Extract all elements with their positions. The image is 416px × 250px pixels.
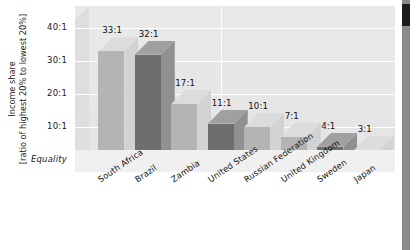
bar-value-label-6: 4:1 bbox=[321, 121, 335, 131]
bar-value-label-0: 33:1 bbox=[102, 25, 122, 35]
bar-value-label-7: 3:1 bbox=[358, 124, 372, 134]
gridline-h-0 bbox=[75, 28, 395, 29]
chart-screenshot: Income share [ratio of highest 20% to lo… bbox=[0, 0, 416, 250]
y-tick-label-2: 20:1 bbox=[47, 88, 67, 98]
y-tick-label-0: 40:1 bbox=[47, 22, 67, 32]
bar-value-label-1: 32:1 bbox=[139, 29, 159, 39]
bar-value-label-4: 10:1 bbox=[248, 101, 268, 111]
bar-value-label-3: 11:1 bbox=[212, 98, 232, 108]
right-edge-marker bbox=[402, 4, 410, 26]
bar-value-label-5: 7:1 bbox=[285, 111, 299, 121]
bar-1[interactable] bbox=[135, 55, 161, 160]
bar-front-face bbox=[98, 51, 124, 160]
y-tick-label-3: 10:1 bbox=[47, 121, 67, 131]
right-edge-band bbox=[402, 0, 410, 250]
bar-0[interactable] bbox=[98, 51, 124, 160]
bar-front-face bbox=[135, 55, 161, 160]
bar-value-label-2: 17:1 bbox=[175, 78, 195, 88]
y-tick-label-1: 30:1 bbox=[47, 55, 67, 65]
y-axis-tick-labels: 40:130:120:110:1Equality bbox=[0, 0, 72, 250]
page-right-margin bbox=[410, 0, 416, 250]
y-tick-label-4: Equality bbox=[31, 154, 67, 164]
plot-area bbox=[75, 6, 395, 168]
